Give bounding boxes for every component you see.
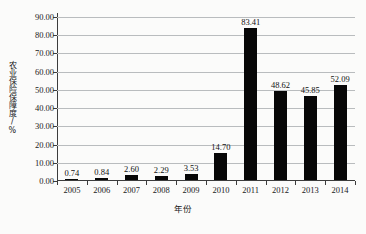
y-axis-tick	[53, 35, 57, 36]
bar-value-label: 3.53	[184, 164, 199, 173]
y-axis-tick	[53, 163, 57, 164]
x-axis-tick-label: 2013	[302, 186, 319, 195]
bar-value-label: 83.41	[241, 18, 260, 27]
bar[interactable]	[95, 178, 108, 180]
bar[interactable]	[125, 175, 138, 180]
x-axis-tick	[236, 181, 237, 185]
bar-value-label: 0.74	[64, 169, 79, 178]
bar[interactable]	[185, 174, 198, 180]
bar[interactable]	[304, 96, 317, 180]
y-axis-tick-label: 50.00	[18, 86, 54, 95]
y-axis-tick	[53, 72, 57, 73]
y-axis-tick-label: 20.00	[18, 141, 54, 150]
x-axis-tick-label: 2014	[332, 186, 349, 195]
y-axis-tick	[53, 90, 57, 91]
y-axis-line	[57, 13, 58, 181]
bar-value-label: 48.62	[271, 81, 290, 90]
y-axis-tick-label: 70.00	[18, 49, 54, 58]
x-axis-tick	[325, 181, 326, 185]
y-axis-tick-label: 60.00	[18, 68, 54, 77]
gridline	[57, 17, 355, 18]
y-axis-tick-label: 30.00	[18, 122, 54, 131]
x-axis-tick	[355, 181, 356, 185]
gridline	[57, 53, 355, 54]
y-axis-tick-label: 10.00	[18, 159, 54, 168]
y-axis-tick-label: 40.00	[18, 104, 54, 113]
x-axis-tick-label: 2009	[183, 186, 200, 195]
x-axis-tick-label: 2010	[212, 186, 229, 195]
bar[interactable]	[65, 179, 78, 181]
bar[interactable]	[334, 85, 347, 180]
y-axis-tick-label: 0.00	[18, 177, 54, 186]
x-axis-tick	[266, 181, 267, 185]
bar-value-label: 0.84	[94, 168, 109, 177]
x-axis-tick	[295, 181, 296, 185]
y-axis-title: 农业保险保障度/%	[6, 46, 18, 150]
x-axis-tick	[176, 181, 177, 185]
bar[interactable]	[155, 176, 168, 180]
y-axis-tick-labels: 0.0010.0020.0030.0040.0050.0060.0070.008…	[18, 13, 54, 181]
y-axis-tick	[53, 53, 57, 54]
bar[interactable]	[244, 28, 257, 180]
x-axis-tick-label: 2008	[153, 186, 170, 195]
bar-value-label: 52.09	[331, 75, 350, 84]
y-axis-tick-label: 80.00	[18, 31, 54, 40]
bar-value-label: 14.70	[211, 143, 230, 152]
bar[interactable]	[214, 153, 227, 180]
plot-area: 0.740.842.602.293.5314.7083.4148.6245.85…	[57, 17, 355, 181]
bar-value-label: 2.60	[124, 165, 139, 174]
x-axis-tick	[117, 181, 118, 185]
gridline	[57, 72, 355, 73]
x-axis-tick-label: 2011	[242, 186, 259, 195]
y-axis-tick	[53, 17, 57, 18]
y-axis-tick	[53, 126, 57, 127]
x-axis-tick	[146, 181, 147, 185]
x-axis-tick	[57, 181, 58, 185]
chart-figure: 农业保险保障度/% 0.0010.0020.0030.0040.0050.006…	[0, 0, 366, 234]
bar-value-label: 45.85	[301, 86, 320, 95]
y-axis-tick	[53, 108, 57, 109]
x-axis-tick-label: 2005	[63, 186, 80, 195]
x-axis-tick	[87, 181, 88, 185]
x-axis-tick	[206, 181, 207, 185]
y-axis-tick-label: 90.00	[18, 13, 54, 22]
x-axis-tick-label: 2012	[272, 186, 289, 195]
y-axis-tick	[53, 145, 57, 146]
bar[interactable]	[274, 91, 287, 180]
x-axis-title: 年份	[0, 202, 366, 214]
x-axis-tick-label: 2006	[93, 186, 110, 195]
gridline	[57, 35, 355, 36]
x-axis-tick-label: 2007	[123, 186, 140, 195]
bar-value-label: 2.29	[154, 166, 169, 175]
